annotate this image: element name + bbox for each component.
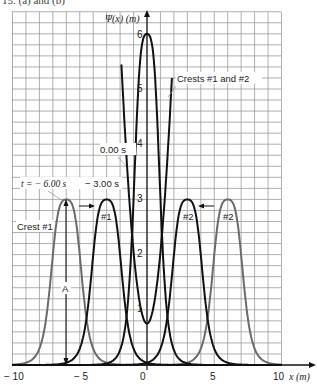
label-t-minus6: t = − 6.00 s <box>21 179 67 189</box>
y-tick-3: 3 <box>137 193 143 204</box>
x-axis-label: x (m) <box>288 371 310 383</box>
label-crests-both: Crests #1 and #2 <box>177 73 249 84</box>
y-tick-4: 4 <box>137 138 143 149</box>
y-tick-2: 2 <box>137 248 143 259</box>
label-t-zero: 0.00 s <box>100 144 126 155</box>
x-tick-neg5: − 5 <box>74 371 89 382</box>
y-axis-arrow-icon <box>144 10 150 17</box>
label-crest1: Crest #1 <box>17 221 53 232</box>
arrow-right-icon <box>89 204 95 209</box>
y-axis-label: Ψ(x) (m) <box>105 13 140 25</box>
x-axis-arrow-icon <box>309 362 316 368</box>
label-c2-black: #2 <box>183 211 194 222</box>
label-amplitude: A <box>62 283 69 294</box>
y-tick-1: 1 <box>137 303 143 314</box>
x-tick-5: 5 <box>210 371 216 382</box>
y-tick-5: 5 <box>137 83 143 94</box>
x-tick-10: 10 <box>273 371 285 382</box>
y-tick-6: 6 <box>137 29 143 40</box>
wave-chart: 1 2 3 4 5 6 − 10 − 5 0 5 10 x (m) Ψ(x) (… <box>0 0 317 385</box>
label-c2-gray: #2 <box>223 211 234 222</box>
x-tick-0: 0 <box>140 371 146 382</box>
label-t-minus3: − 3.00 s <box>85 178 119 189</box>
label-c1: #1 <box>101 211 112 222</box>
x-tick-neg10: − 10 <box>4 371 24 382</box>
